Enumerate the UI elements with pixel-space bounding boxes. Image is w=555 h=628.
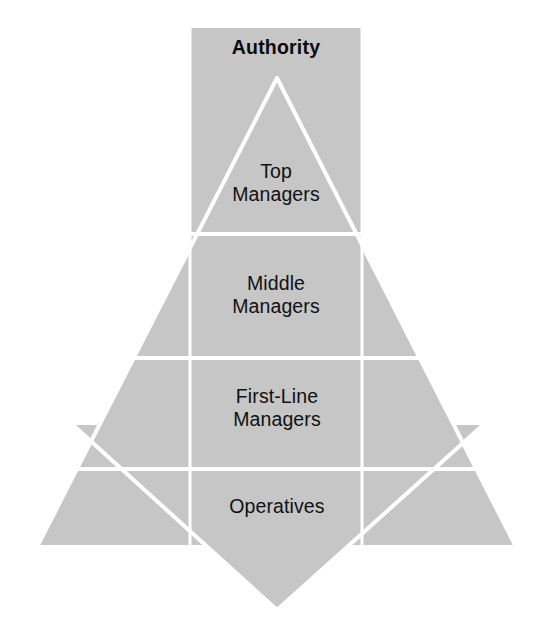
organizational-pyramid-figure: Authority Top Managers Middle Managers F… — [0, 0, 555, 628]
pyramid-diagram-svg — [0, 0, 555, 628]
authority-column-cap — [192, 30, 360, 76]
